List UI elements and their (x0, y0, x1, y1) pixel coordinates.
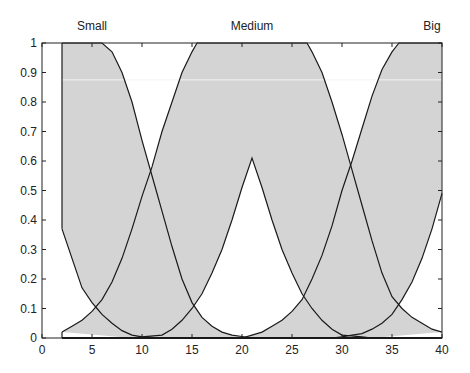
y-tick-label: 0.8 (20, 95, 37, 109)
x-tick-label: 5 (89, 343, 96, 357)
x-tick-label: 0 (39, 343, 46, 357)
y-tick-label: 0.2 (20, 272, 37, 286)
x-tick-label: 15 (185, 343, 199, 357)
x-tick-label: 25 (285, 343, 299, 357)
y-tick-label: 0.1 (20, 302, 37, 316)
membership-function-chart: 0510152025303540 00.10.20.30.40.50.60.70… (0, 0, 470, 373)
fuzzy-set-fills (62, 43, 442, 338)
x-tick-label: 35 (385, 343, 399, 357)
y-tick-label: 0.5 (20, 184, 37, 198)
y-tick-label: 0.6 (20, 154, 37, 168)
y-tick-label: 0.7 (20, 125, 37, 139)
set-labels: SmallMediumBig (77, 19, 441, 33)
set-label-medium: Medium (231, 19, 274, 33)
set-label-big: Big (423, 19, 440, 33)
y-tick-label: 0.9 (20, 66, 37, 80)
x-tick-label: 20 (235, 343, 249, 357)
y-tick-label: 0 (30, 331, 37, 345)
y-tick-label: 0.3 (20, 243, 37, 257)
x-tick-label: 30 (335, 343, 349, 357)
y-tick-label: 1 (30, 36, 37, 50)
set-label-small: Small (77, 19, 107, 33)
x-tick-label: 10 (135, 343, 149, 357)
x-tick-label: 40 (435, 343, 449, 357)
y-tick-label: 0.4 (20, 213, 37, 227)
